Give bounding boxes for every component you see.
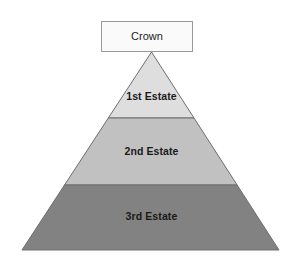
pyramid-band-2nd-estate-label: 2nd Estate xyxy=(124,145,178,157)
pyramid-band-1st-estate-label: 1st Estate xyxy=(126,90,177,102)
crown-label: Crown xyxy=(131,30,163,42)
pyramid-band-3rd-estate-label: 3rd Estate xyxy=(126,210,178,222)
diagram-canvas: 1st Estate 2nd Estate 3rd Estate Crown xyxy=(0,0,304,271)
estates-pyramid-diagram: 1st Estate 2nd Estate 3rd Estate Crown xyxy=(0,0,304,271)
pyramid-band-1st-estate[interactable] xyxy=(108,52,194,118)
